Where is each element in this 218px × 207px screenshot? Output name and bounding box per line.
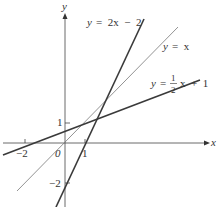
y-tick-label-neg2: −2 — [49, 177, 61, 189]
label-y-eq-x: y = x — [162, 40, 190, 52]
line-y-eq-2x-minus-2 — [56, 19, 144, 207]
x-axis-arrow-icon — [204, 141, 210, 146]
svg-text:=: = — [160, 77, 166, 89]
label-y-eq-half-x-plus-1: y = 1 2 x + 1 — [150, 73, 208, 95]
svg-text:x + 1: x + 1 — [180, 77, 208, 89]
svg-text:y: y — [150, 77, 156, 89]
line-y-eq-x — [17, 27, 178, 191]
label-y-eq-2x-minus-2: y = 2x − 2 — [86, 16, 141, 28]
svg-text:y: y — [162, 40, 168, 52]
svg-text:= 2x − 2: = 2x − 2 — [96, 16, 141, 28]
svg-text:= x: = x — [172, 40, 190, 52]
svg-text:1: 1 — [171, 73, 176, 83]
graph: y x 0 −2 1 1 −2 y = 2x − 2 y = x y = 1 2… — [0, 0, 218, 207]
x-tick-label-neg2: −2 — [16, 147, 28, 159]
svg-text:y: y — [86, 16, 92, 28]
svg-text:2: 2 — [171, 85, 176, 95]
x-axis-label: x — [210, 136, 216, 148]
y-axis-label: y — [61, 0, 67, 12]
y-tick-label-1: 1 — [57, 116, 63, 128]
y-axis-arrow-icon — [63, 13, 68, 19]
x-tick-label-1: 1 — [82, 147, 88, 159]
origin-label: 0 — [55, 147, 61, 159]
